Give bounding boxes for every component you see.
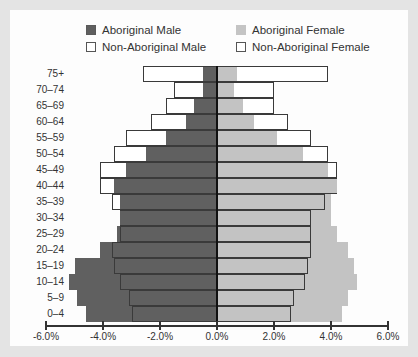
legend-label: Aboriginal Male (102, 24, 181, 36)
legend-swatch-dark (86, 25, 96, 35)
bar-aboriginal-male (166, 131, 217, 145)
legend-non-aboriginal-male: Non-Aboriginal Male (86, 41, 206, 53)
x-axis-tick (387, 321, 389, 330)
bar-aboriginal-female (217, 179, 337, 193)
bar-non-aboriginal-male (112, 242, 217, 258)
bar-aboriginal-male (203, 83, 217, 97)
age-group-label: 30–34 (14, 210, 64, 226)
x-axis-tick-label: -6.0% (26, 331, 66, 342)
bar-non-aboriginal-male (120, 226, 217, 242)
legend-swatch-light (236, 25, 246, 35)
age-group-label: 55–59 (14, 130, 64, 146)
x-axis-tick-label: 6.0% (368, 331, 408, 342)
age-group-label: 20–24 (14, 242, 64, 258)
x-axis-tick-label: 4.0% (311, 331, 351, 342)
x-axis-tick-label: 2.0% (254, 331, 294, 342)
bar-aboriginal-female (217, 147, 303, 161)
legend-label: Aboriginal Female (252, 24, 345, 36)
chart-frame: Aboriginal Male Non-Aboriginal Male Abor… (0, 0, 418, 357)
x-axis-tick (273, 321, 275, 330)
age-group-label: 25–29 (14, 226, 64, 242)
age-group-label: 45–49 (14, 162, 64, 178)
bar-aboriginal-male (203, 67, 217, 81)
bar-aboriginal-male (146, 147, 217, 161)
bar-non-aboriginal-male (120, 274, 217, 290)
x-axis-tick (159, 321, 161, 330)
age-group-label: 70–74 (14, 82, 64, 98)
bar-aboriginal-female (217, 131, 277, 145)
age-group-label: 60–64 (14, 114, 64, 130)
legend-non-aboriginal-female: Non-Aboriginal Female (236, 41, 370, 53)
x-axis-tick (216, 321, 218, 330)
age-group-label: 5–9 (14, 290, 64, 306)
bar-aboriginal-male (186, 115, 217, 129)
bar-non-aboriginal-female (217, 306, 291, 322)
age-group-label: 10–14 (14, 274, 64, 290)
x-axis-tick-label: -4.0% (83, 331, 123, 342)
legend-swatch-outline (86, 42, 96, 52)
bar-non-aboriginal-male (129, 290, 217, 306)
legend-aboriginal-female: Aboriginal Female (236, 24, 345, 36)
x-axis-tick-label: 0.0% (197, 331, 237, 342)
age-group-label: 65–69 (14, 98, 64, 114)
bar-aboriginal-male (120, 211, 217, 225)
bar-non-aboriginal-female (217, 290, 294, 306)
bar-aboriginal-male (194, 99, 217, 113)
legend-label: Non-Aboriginal Female (252, 41, 370, 53)
age-group-label: 75+ (14, 66, 64, 82)
age-group-label: 35–39 (14, 194, 64, 210)
x-axis-tick (330, 321, 332, 330)
legend-swatch-outline (236, 42, 246, 52)
bar-non-aboriginal-female (217, 210, 311, 226)
legend-aboriginal-male: Aboriginal Male (86, 24, 181, 36)
bar-non-aboriginal-male (114, 258, 217, 274)
bar-aboriginal-female (217, 163, 328, 177)
bar-aboriginal-female (217, 115, 254, 129)
bar-aboriginal-male (120, 195, 217, 209)
legend-label: Non-Aboriginal Male (102, 41, 206, 53)
age-group-label: 40–44 (14, 178, 64, 194)
bar-aboriginal-female (217, 67, 237, 81)
age-group-label: 50–54 (14, 146, 64, 162)
bar-non-aboriginal-female (217, 274, 305, 290)
age-group-label: 15–19 (14, 258, 64, 274)
bar-non-aboriginal-female (217, 194, 325, 210)
bar-aboriginal-male (114, 179, 217, 193)
x-axis-tick-label: -2.0% (140, 331, 180, 342)
bar-non-aboriginal-female (217, 226, 311, 242)
age-group-label: 0–4 (14, 306, 64, 322)
bar-aboriginal-male (126, 163, 217, 177)
bar-non-aboriginal-male (132, 306, 218, 322)
bar-aboriginal-female (217, 83, 234, 97)
bar-aboriginal-female (217, 99, 243, 113)
center-axis-line (216, 66, 218, 325)
x-axis-tick (45, 321, 47, 330)
bar-non-aboriginal-female (217, 258, 308, 274)
bar-non-aboriginal-female (217, 242, 311, 258)
x-axis-tick (102, 321, 104, 330)
